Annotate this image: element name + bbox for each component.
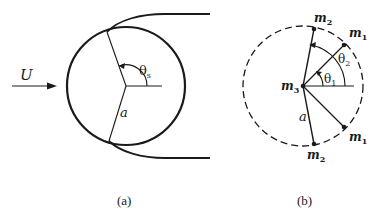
figure-a xyxy=(12,14,210,158)
separation-angle-symbol: θ xyxy=(139,63,147,78)
lower-free-streamline xyxy=(109,141,210,158)
label-theta1: θ1 xyxy=(324,72,336,88)
point-m2-top xyxy=(312,27,317,32)
caption-b: (b) xyxy=(297,193,312,208)
label-m3-symbol: m xyxy=(281,79,294,93)
label-m1-lower-symbol: m xyxy=(349,130,362,144)
label-m1-upper-sub: 1 xyxy=(362,32,368,42)
label-m2-top-symbol: m xyxy=(314,11,327,25)
theta1-arrowhead-icon xyxy=(316,71,322,76)
label-m2-top: m2 xyxy=(314,11,332,27)
separation-angle-subscript: s xyxy=(147,71,151,80)
radius-label-b: a xyxy=(299,109,307,124)
label-m3: m3 xyxy=(281,79,300,95)
label-theta1-sub: 1 xyxy=(331,79,336,88)
label-m1-upper-symbol: m xyxy=(349,26,362,40)
diagram-canvas: U θs a (a) m2 m1 m3 θ1 θ2 a m1 m2 (b) xyxy=(0,0,374,219)
caption-a: (a) xyxy=(117,193,131,208)
radius-label-a: a xyxy=(120,105,128,120)
point-m2-bottom xyxy=(312,142,317,147)
separation-angle-label: θs xyxy=(139,63,151,80)
point-m3 xyxy=(301,84,306,89)
flow-arrowhead-icon xyxy=(47,83,57,90)
upper-free-streamline xyxy=(107,14,210,32)
figure-b xyxy=(243,26,363,146)
label-theta2: θ2 xyxy=(338,52,350,68)
flow-velocity-label: U xyxy=(20,66,34,84)
label-m3-sub: 3 xyxy=(294,85,300,95)
label-theta1-symbol: θ xyxy=(324,72,331,86)
point-m1-upper xyxy=(342,43,347,48)
point-m1-lower xyxy=(342,125,347,130)
label-m1-lower-sub: 1 xyxy=(362,136,368,146)
label-theta2-symbol: θ xyxy=(338,52,345,66)
radius-upper-line xyxy=(107,32,126,86)
label-m2-bottom-sub: 2 xyxy=(320,154,326,164)
label-m2-bottom: m2 xyxy=(307,148,325,164)
label-m2-bottom-symbol: m xyxy=(307,148,320,162)
label-m1-upper: m1 xyxy=(349,26,367,42)
label-m1-lower: m1 xyxy=(349,130,367,146)
label-theta2-sub: 2 xyxy=(345,59,350,68)
label-m2-top-sub: 2 xyxy=(327,17,333,27)
